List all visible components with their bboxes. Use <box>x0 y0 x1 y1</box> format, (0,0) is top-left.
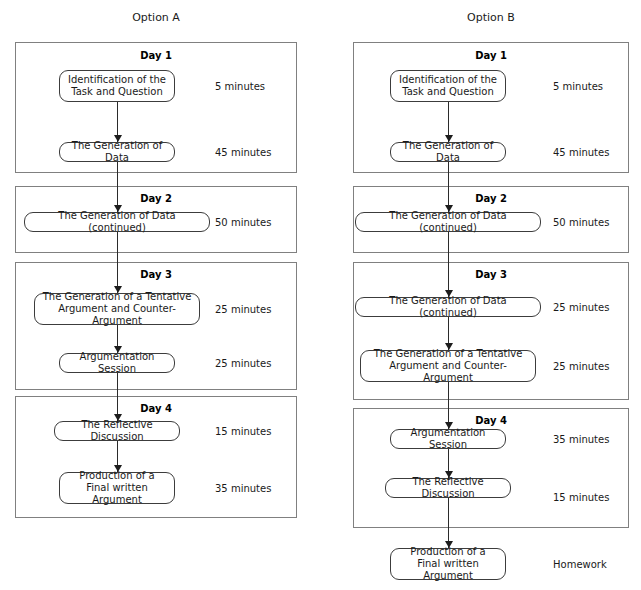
column-title-option-b: Option B <box>431 11 551 24</box>
duration-label-b-1-2: 45 minutes <box>553 147 609 158</box>
flowchart-figure: Option AOption BDay 1Identification of t… <box>0 0 641 590</box>
duration-label-b-4-1: 35 minutes <box>553 434 609 445</box>
duration-label-b-final: Homework <box>553 559 607 570</box>
duration-label-b-1-1: 5 minutes <box>553 81 603 92</box>
day-label-b-3: Day 3 <box>353 269 629 280</box>
process-node-a-3-1[interactable]: The Generation of a Tentative Argument a… <box>34 293 200 325</box>
process-node-b-4-2[interactable]: The Reflective Discussion <box>385 478 511 498</box>
day-label-b-2: Day 2 <box>353 193 629 204</box>
process-node-a-4-2[interactable]: Production of a Final written Argument <box>59 472 175 504</box>
duration-label-a-2-1: 50 minutes <box>215 217 271 228</box>
flow-connector-a-3 <box>117 232 118 293</box>
process-node-b-1-2[interactable]: The Generation of Data <box>390 142 506 162</box>
process-node-b-4-1[interactable]: Argumentation Session <box>390 429 506 449</box>
process-node-a-1-1[interactable]: Identification of the Task and Question <box>59 70 175 102</box>
duration-label-a-4-2: 35 minutes <box>215 483 271 494</box>
duration-label-a-1-2: 45 minutes <box>215 147 271 158</box>
duration-label-b-3-1: 25 minutes <box>553 302 609 313</box>
day-label-b-1: Day 1 <box>353 50 629 61</box>
duration-label-a-1-1: 5 minutes <box>215 81 265 92</box>
duration-label-a-3-2: 25 minutes <box>215 358 271 369</box>
process-node-a-4-1[interactable]: The Reflective Discussion <box>54 421 180 441</box>
process-node-b-2-1[interactable]: The Generation of Data (continued) <box>355 212 541 232</box>
duration-label-b-2-1: 50 minutes <box>553 217 609 228</box>
column-title-option-a: Option A <box>96 11 216 24</box>
day-box-b-4 <box>353 408 629 528</box>
duration-label-a-3-1: 25 minutes <box>215 304 271 315</box>
duration-label-b-4-2: 15 minutes <box>553 492 609 503</box>
process-node-a-2-1[interactable]: The Generation of Data (continued) <box>24 212 210 232</box>
day-label-a-3: Day 3 <box>15 269 297 280</box>
flow-connector-b-3 <box>448 232 449 297</box>
process-node-b-3-2[interactable]: The Generation of a Tentative Argument a… <box>360 350 536 382</box>
process-node-b-1-1[interactable]: Identification of the Task and Question <box>390 70 506 102</box>
day-label-a-2: Day 2 <box>15 193 297 204</box>
day-label-a-4: Day 4 <box>15 403 297 414</box>
process-node-b-3-1[interactable]: The Generation of Data (continued) <box>355 297 541 317</box>
duration-label-b-3-2: 25 minutes <box>553 361 609 372</box>
day-label-a-1: Day 1 <box>15 50 297 61</box>
process-node-a-3-2[interactable]: Argumentation Session <box>59 353 175 373</box>
process-node-a-1-2[interactable]: The Generation of Data <box>59 142 175 162</box>
duration-label-a-4-1: 15 minutes <box>215 426 271 437</box>
day-label-b-4: Day 4 <box>353 415 629 426</box>
process-node-b-final[interactable]: Production of a Final written Argument <box>390 548 506 580</box>
